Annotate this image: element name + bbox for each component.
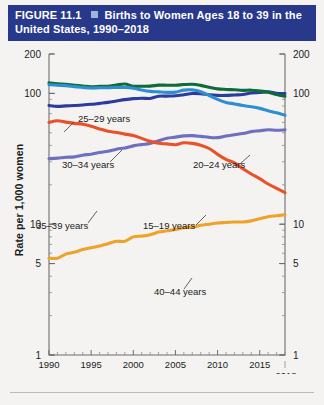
x-tick-label: 2005 [165, 359, 186, 370]
x-tick-label: 2015 [249, 359, 270, 370]
x-last-tick-label: 2018 [275, 370, 296, 374]
y-axis-label: Rate per 1,000 women [13, 135, 25, 265]
x-tick-label: 2010 [207, 359, 228, 370]
x-tick-label: 1995 [81, 359, 102, 370]
chart-plot-area: Rate per 1,000 women 2002001001001010551… [0, 44, 324, 374]
annotation-leader-line [88, 211, 97, 223]
series-label: 25–29 years [78, 113, 131, 124]
y-tick-label-right: 5 [293, 258, 299, 269]
figure-header: FIGURE 11.1Births to Women Ages 18 to 39… [8, 5, 316, 41]
series-label: 30–34 years [62, 159, 115, 170]
figure-container: FIGURE 11.1Births to Women Ages 18 to 39… [0, 0, 324, 405]
series-label: 20–24 years [193, 159, 246, 170]
series-line-30-34 [49, 92, 285, 107]
series-label: 35–39 years [36, 220, 89, 231]
footer-divider [10, 392, 314, 393]
series-label: 40–44 years [154, 286, 207, 297]
y-tick-label-right: 100 [293, 88, 310, 99]
y-tick-label-right: 10 [293, 219, 305, 230]
y-tick-label-left: 5 [35, 258, 41, 269]
x-tick-label: 2000 [123, 359, 144, 370]
series-label: 15–19 years [143, 220, 196, 231]
y-tick-label-left: 100 [24, 88, 41, 99]
line-chart: 2002001001001010551119901995200020052010… [0, 44, 324, 374]
figure-number: FIGURE 11.1 [15, 9, 82, 21]
y-tick-label-left: 200 [24, 49, 41, 60]
y-tick-label-right: 1 [293, 350, 299, 361]
square-bullet-icon [91, 11, 98, 18]
x-tick-label: 1990 [38, 359, 59, 370]
y-tick-label-right: 200 [293, 49, 310, 60]
